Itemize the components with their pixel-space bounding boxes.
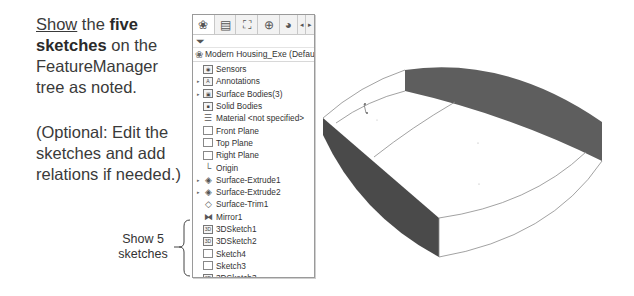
model-viewport[interactable] bbox=[0, 0, 634, 296]
left-wall-face bbox=[323, 118, 439, 257]
